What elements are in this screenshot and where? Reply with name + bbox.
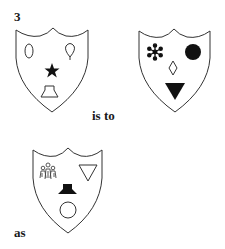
analogy-figure	[0, 0, 225, 249]
shield-outline	[139, 29, 210, 112]
shield-2	[139, 29, 210, 112]
shield-3	[33, 148, 102, 233]
shield-1	[16, 28, 88, 112]
filled-circle-icon	[185, 44, 201, 60]
